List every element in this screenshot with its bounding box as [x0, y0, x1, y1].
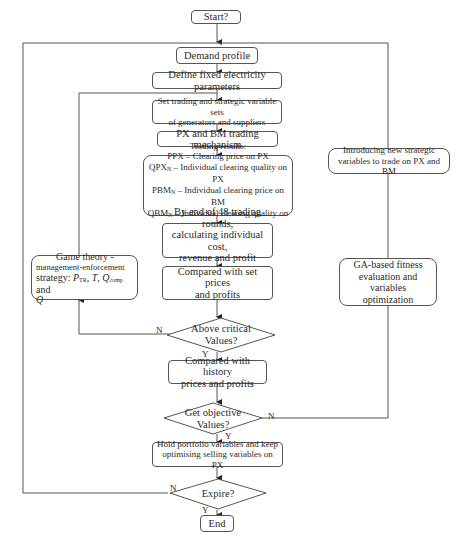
ga-based-line1: GA-based fitness	[353, 259, 422, 271]
ga-based-line2: evaluation and variables	[343, 271, 433, 294]
compare-set-line2: and profits	[195, 289, 240, 301]
above-critical-line1: Above critical	[191, 323, 251, 335]
compare-history-line2: prices and profits	[181, 378, 254, 390]
trading-result-pbm: PBMN – Individual clearing price on BM	[147, 185, 289, 208]
above-critical-no-label: N	[156, 326, 163, 335]
compare-history-line1: Compared with history	[172, 355, 263, 378]
above-critical-node: Above critical Values?	[165, 317, 277, 353]
hold-portfolio-node: Hold portfolio variables and keep optimi…	[152, 442, 283, 467]
set-trading-line2: of generators and suppliers	[168, 117, 265, 128]
end-of-rounds-line1: By end of 48 trading rounds,	[166, 206, 269, 229]
ga-based-node: GA-based fitness evaluation and variable…	[339, 258, 437, 306]
game-theory-node: Game theory - management-enforcement str…	[31, 255, 138, 300]
above-critical-line2: Values?	[205, 335, 238, 347]
set-trading-node: Set trading and strategic variable sets …	[152, 100, 282, 124]
define-params-node: Define fixed electricity parameters	[152, 72, 282, 89]
expire-yes-label: Y	[202, 506, 209, 515]
game-theory-line3: strategy: PTR, T, Qcomp and	[36, 273, 134, 296]
introducing-line2: variables to trade on PX and BM	[332, 156, 446, 177]
introducing-node: Introducing new strategic variables to t…	[328, 148, 450, 174]
trading-result-qpx: QPXN – Individual clearing quality on PX	[147, 162, 289, 185]
end-of-rounds-node: By end of 48 trading rounds, calculating…	[162, 223, 273, 258]
end-of-rounds-line2: calculating individual cost,	[166, 229, 269, 252]
get-objective-node: Get objective Values?	[162, 402, 264, 435]
trading-results-title: Trading results:	[190, 141, 246, 152]
compare-set-node: Compared with set prices and profits	[162, 266, 273, 300]
start-node: Start?	[191, 10, 241, 24]
get-objective-no-label: N	[268, 412, 275, 421]
demand-profile-node: Demand profile	[176, 47, 258, 64]
define-params-label: Define fixed electricity parameters	[156, 69, 278, 92]
game-theory-line4: Q	[36, 296, 43, 304]
expire-label: Expire?	[202, 488, 235, 500]
game-theory-line1: Game theory -	[56, 252, 114, 263]
hold-portfolio-line1: Hold portfolio variables and keep	[157, 439, 278, 450]
start-label: Start?	[204, 11, 229, 23]
get-objective-line1: Get objective	[185, 407, 241, 419]
set-trading-line1: Set trading and strategic variable sets	[156, 96, 278, 117]
get-objective-line2: Values?	[197, 419, 230, 431]
demand-profile-label: Demand profile	[184, 50, 250, 62]
ga-based-line3: optimization	[363, 294, 414, 306]
end-label: End	[209, 518, 226, 530]
introducing-line1: Introducing new strategic	[343, 145, 435, 156]
expire-node: Expire?	[168, 478, 268, 510]
trading-result-ppx: PPX – Clearing price on PX	[167, 151, 269, 162]
hold-portfolio-line2: optimising selling variables on PX	[156, 449, 279, 470]
compare-set-line1: Compared with set prices	[166, 266, 269, 289]
compare-history-node: Compared with history prices and profits	[168, 360, 267, 384]
expire-no-label: N	[170, 484, 177, 493]
end-node: End	[200, 515, 234, 532]
